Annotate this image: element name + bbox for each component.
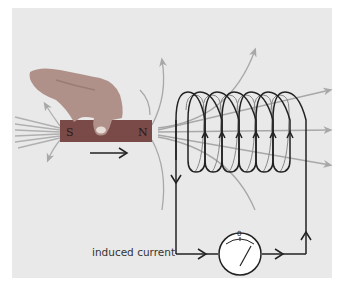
north-pole-label: N <box>138 126 148 139</box>
field-lines-south <box>15 104 60 160</box>
coil <box>176 92 306 230</box>
induction-diagram: S N <box>0 0 344 285</box>
south-pole-label: S <box>66 126 74 139</box>
galvanometer-zero-label: 0 <box>237 230 241 238</box>
induced-current-label: induced current <box>92 246 175 258</box>
field-lines-north <box>140 50 330 210</box>
motion-arrow <box>90 148 127 158</box>
galvanometer: 0 <box>219 230 261 275</box>
